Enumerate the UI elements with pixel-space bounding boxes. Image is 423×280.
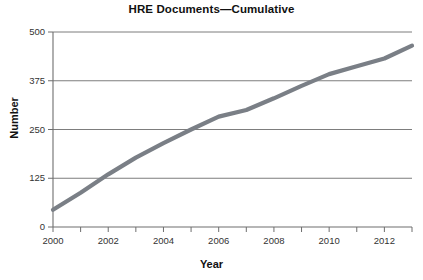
y-tick-label: 375 — [5, 75, 45, 86]
x-tick-label: 2008 — [252, 235, 296, 246]
x-tick-label: 2004 — [141, 235, 185, 246]
x-tick-label: 2000 — [31, 235, 75, 246]
chart-container: HRE Documents—Cumulative Number Year 012… — [0, 0, 423, 280]
y-tick-label: 250 — [5, 124, 45, 135]
data-line — [53, 46, 412, 210]
gridlines — [53, 32, 412, 178]
data-series — [53, 46, 412, 210]
y-tick-label: 125 — [5, 172, 45, 183]
x-tick-label: 2012 — [362, 235, 406, 246]
y-tick-label: 500 — [5, 26, 45, 37]
x-axis-ticks — [53, 227, 412, 232]
y-axis-ticks — [48, 32, 53, 227]
y-tick-label: 0 — [5, 221, 45, 232]
x-tick-label: 2002 — [86, 235, 130, 246]
x-tick-label: 2006 — [197, 235, 241, 246]
x-tick-label: 2010 — [307, 235, 351, 246]
